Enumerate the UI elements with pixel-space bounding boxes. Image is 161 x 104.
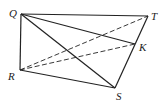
segment-rt <box>20 16 148 70</box>
segment-rs <box>20 70 115 88</box>
segment-qs <box>21 14 115 88</box>
geometry-figure: Q T K R S <box>0 0 161 104</box>
segment-qt <box>21 14 148 16</box>
label-t: T <box>151 10 158 22</box>
segment-qr <box>20 14 21 70</box>
label-q: Q <box>9 7 17 19</box>
segments <box>20 14 148 88</box>
label-r: R <box>7 70 15 82</box>
segment-rk <box>20 44 135 70</box>
label-k: K <box>138 41 147 53</box>
label-s: S <box>116 90 122 102</box>
figure-canvas: Q T K R S <box>0 0 161 104</box>
